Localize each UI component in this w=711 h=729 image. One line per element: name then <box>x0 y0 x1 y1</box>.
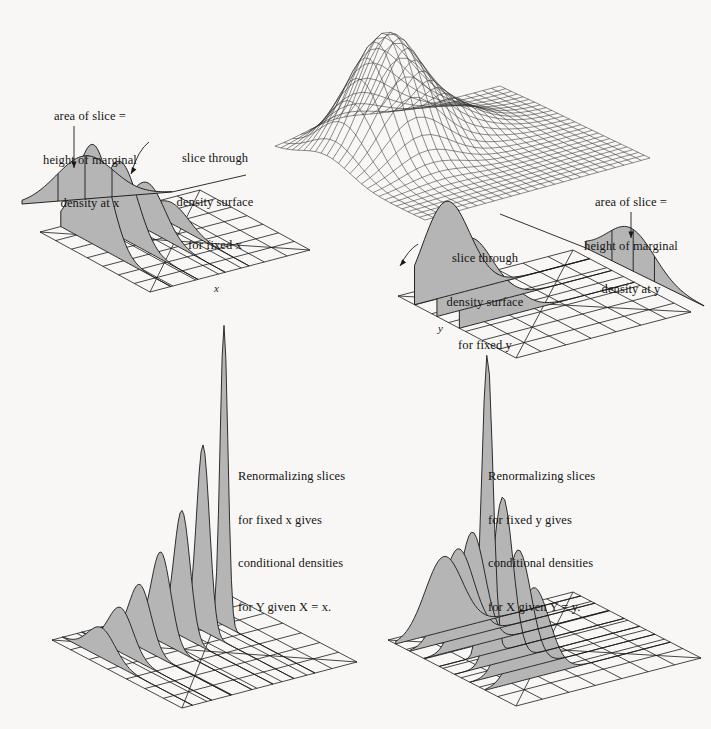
axis-label-x-top: x <box>214 282 219 294</box>
annotation-line: density surface <box>150 195 280 210</box>
annotation-line: for fixed y gives <box>488 513 663 528</box>
annotation-line: conditional densities <box>488 556 663 571</box>
annotation-line: area of slice = <box>556 195 706 210</box>
annotation-line: density surface <box>420 295 550 310</box>
annotation-line: conditional densities <box>238 556 408 571</box>
annotation-bottom-right: Renormalizing slices for fixed y gives c… <box>488 440 663 629</box>
annotation-bottom-left: Renormalizing slices for fixed x gives c… <box>238 440 408 629</box>
annotation-line: Renormalizing slices <box>238 469 408 484</box>
annotation-line: for fixed y <box>420 338 550 353</box>
annotation-line: for fixed x <box>150 238 280 253</box>
annotation-line: density at x <box>10 196 170 211</box>
axis-label-y-mid: y <box>438 322 443 334</box>
annotation-mid-right-slice: slice through density surface for fixed … <box>420 222 550 367</box>
annotation-line: for X given Y = y. <box>488 600 663 615</box>
annotation-line: area of slice = <box>10 109 170 124</box>
annotation-line: slice through <box>150 151 280 166</box>
annotation-top-left-marginal: area of slice = height of marginal densi… <box>10 80 170 225</box>
annotation-line: for fixed x gives <box>238 513 408 528</box>
annotation-line: Renormalizing slices <box>488 469 663 484</box>
annotation-mid-right-marginal: area of slice = height of marginal densi… <box>556 166 706 311</box>
annotation-top-left-slice: slice through density surface for fixed … <box>150 122 280 267</box>
annotation-line: for Y given X = x. <box>238 600 408 615</box>
annotation-line: density at y <box>556 282 706 297</box>
annotation-line: height of marginal <box>10 153 170 168</box>
annotation-line: height of marginal <box>556 239 706 254</box>
annotation-line: slice through <box>420 251 550 266</box>
